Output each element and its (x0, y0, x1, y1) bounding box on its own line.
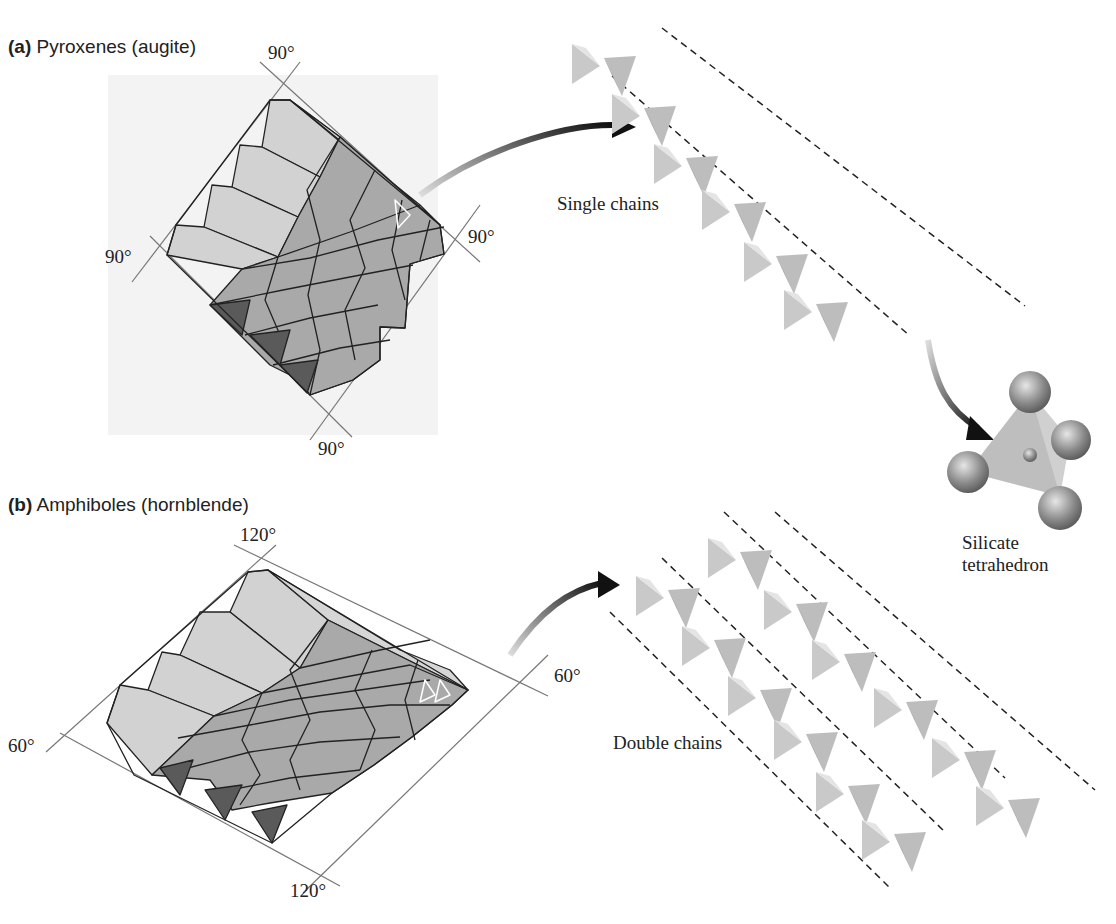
angle-label-a-bottom: 90° (318, 438, 345, 460)
panel-b-title-text: Amphiboles (hornblende) (37, 494, 249, 515)
panel-b-letter: (b) (8, 494, 32, 515)
arrow-head-b (598, 571, 620, 598)
diagram-canvas (0, 0, 1116, 924)
silicate-tetrahedron-model (947, 371, 1091, 530)
oxygen-sphere-left (947, 451, 989, 493)
angle-label-a-left: 90° (105, 246, 132, 268)
single-chains-label: Single chains (557, 193, 659, 215)
angle-label-b-bottom: 120° (290, 880, 326, 902)
angle-label-a-right: 90° (468, 226, 495, 248)
arrow-to-double-chains (510, 583, 602, 655)
arrow-head-tetra (966, 416, 994, 440)
angle-label-b-left: 60° (8, 735, 35, 757)
arrow-to-single-chains (420, 125, 612, 195)
oxygen-sphere-top (1009, 371, 1051, 413)
pyroxene-crystal (132, 62, 480, 440)
oxygen-sphere-right (1051, 420, 1091, 460)
panel-a-title-text: Pyroxenes (augite) (37, 36, 196, 57)
amphibole-crystal (46, 545, 548, 893)
double-chains-label: Double chains (613, 732, 722, 754)
arrow-to-tetrahedron (928, 340, 978, 428)
tetrahedron-label-line1: Silicate (962, 532, 1049, 554)
panel-b-title: (b) Amphiboles (hornblende) (8, 494, 249, 516)
single-chain-diagram (572, 28, 1025, 342)
oxygen-sphere-bottom (1038, 486, 1082, 530)
angle-label-b-top: 120° (240, 524, 276, 546)
silicate-tetrahedron-label: Silicate tetrahedron (962, 532, 1049, 576)
panel-a-letter: (a) (8, 36, 31, 57)
angle-label-b-right: 60° (554, 665, 581, 687)
panel-a-title: (a) Pyroxenes (augite) (8, 36, 196, 58)
tetrahedron-label-line2: tetrahedron (962, 554, 1049, 576)
angle-label-a-top: 90° (268, 42, 295, 64)
